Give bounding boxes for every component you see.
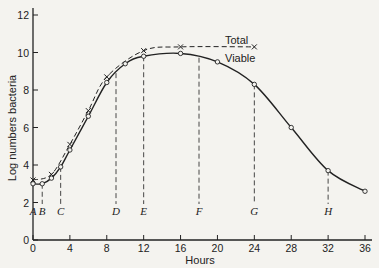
phase-label-e: E	[139, 205, 147, 217]
viable-point-marker	[86, 114, 90, 118]
y-tick-label: 0	[23, 234, 29, 246]
viable-point-marker	[31, 182, 35, 186]
viable-point-marker	[40, 182, 44, 186]
viable-point-marker	[178, 51, 182, 55]
viable-point-marker	[105, 80, 109, 84]
phase-label-a: A	[29, 205, 37, 217]
viable-point-marker	[326, 168, 330, 172]
viable-point-marker	[141, 54, 145, 58]
phase-markers: ABCDEFGH	[29, 56, 334, 217]
x-tick-label: 0	[30, 242, 36, 254]
x-tick-label: 12	[138, 242, 150, 254]
y-axis-label: Log numbers bacteria	[6, 74, 18, 181]
y-tick-label: 8	[23, 84, 29, 96]
phase-label-d: D	[111, 205, 120, 217]
y-tick-label: 6	[23, 122, 29, 134]
x-tick-label: 28	[285, 242, 297, 254]
total-point-marker	[104, 74, 109, 79]
x-tick-label: 20	[212, 242, 224, 254]
viable-point-marker	[215, 60, 219, 64]
viable-point-marker	[289, 125, 293, 129]
phase-label-h: H	[323, 205, 333, 217]
total-point-marker	[141, 48, 146, 53]
growth-curve-chart: 04812162024283236024681012 ABCDEFGH Hour…	[0, 0, 379, 268]
x-tick-label: 36	[359, 242, 371, 254]
legend-viable: Viable	[225, 52, 255, 64]
y-tick-label: 4	[23, 159, 29, 171]
viable-point-marker	[58, 165, 62, 169]
legend-total: Total	[225, 34, 248, 46]
y-tick-label: 12	[17, 9, 29, 21]
x-tick-label: 8	[104, 242, 110, 254]
viable-point-marker	[252, 82, 256, 86]
x-tick-label: 32	[322, 242, 334, 254]
viable-point-marker	[363, 189, 367, 193]
viable-point-marker	[123, 62, 127, 66]
axes: 04812162024283236024681012	[17, 8, 372, 254]
y-tick-label: 2	[23, 197, 29, 209]
phase-label-f: F	[195, 205, 203, 217]
y-tick-label: 10	[17, 47, 29, 59]
x-axis-label: Hours	[185, 254, 215, 266]
x-tick-label: 4	[67, 242, 73, 254]
viable-point-marker	[49, 176, 53, 180]
phase-label-g: G	[250, 205, 258, 217]
total-point-marker	[252, 44, 257, 49]
phase-label-c: C	[57, 205, 65, 217]
viable-point-marker	[68, 148, 72, 152]
x-tick-label: 16	[175, 242, 187, 254]
phase-label-b: B	[39, 205, 46, 217]
x-tick-label: 24	[248, 242, 260, 254]
